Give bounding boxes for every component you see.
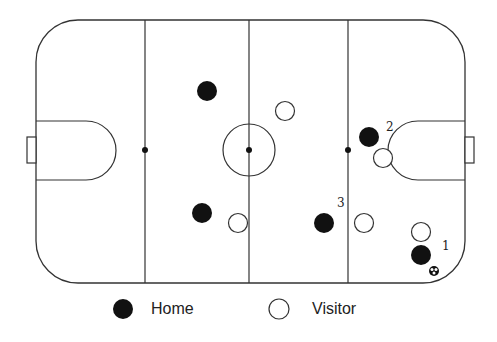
crease-right [388, 121, 465, 180]
faceoff-dot-left [142, 147, 148, 153]
player-number-labels: 231 [337, 120, 450, 253]
home-player-marker [314, 213, 334, 233]
crease-left [36, 121, 116, 180]
goal-right [465, 137, 474, 163]
visitor-player-marker [229, 214, 248, 233]
player-number-label: 2 [386, 120, 394, 134]
faceoff-dot-center [246, 147, 252, 153]
puck-icon [429, 266, 439, 276]
legend-visitor-label: Visitor [312, 301, 356, 317]
visitor-player-marker [276, 102, 295, 121]
home-player-marker [411, 245, 431, 265]
home-player-marker [359, 127, 379, 147]
player-number-label: 3 [337, 196, 345, 210]
visitor-player-marker [355, 214, 374, 233]
home-player-marker [197, 81, 217, 101]
faceoff-dot-right [345, 147, 351, 153]
visitor-player-marker [374, 149, 393, 168]
home-player-marker [192, 203, 212, 223]
legend-home-label: Home [151, 301, 194, 317]
rink-diagram: 231 [0, 0, 497, 342]
player-number-label: 1 [442, 239, 450, 253]
visitor-player-marker [412, 223, 431, 242]
home-players [192, 81, 431, 265]
legend-home-marker [113, 299, 133, 319]
goal-left [27, 137, 36, 163]
legend-visitor-marker [269, 299, 289, 319]
